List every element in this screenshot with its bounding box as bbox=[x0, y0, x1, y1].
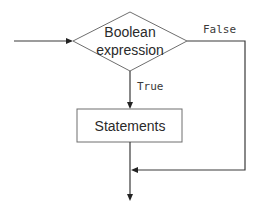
true-branch-label: True bbox=[137, 80, 164, 93]
decision-node: Boolean expression bbox=[73, 12, 187, 71]
false-branch-line bbox=[136, 41, 245, 170]
false-branch-label: False bbox=[203, 23, 236, 36]
exit-arrowhead bbox=[127, 194, 133, 201]
true-branch-arrowhead bbox=[127, 102, 133, 109]
false-branch-arrowhead bbox=[131, 167, 138, 173]
statements-label: Statements bbox=[95, 118, 166, 134]
flowchart-canvas: Boolean expression True False Statements bbox=[0, 0, 263, 211]
decision-label-line-2: expression bbox=[96, 42, 164, 58]
exit-edge bbox=[127, 142, 133, 201]
process-node: Statements bbox=[77, 109, 182, 142]
entry-edge bbox=[14, 38, 73, 44]
decision-label-line-1: Boolean bbox=[104, 24, 155, 40]
true-branch-edge: True bbox=[127, 71, 164, 109]
